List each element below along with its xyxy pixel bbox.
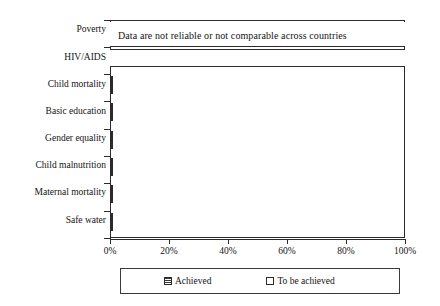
hatched-square-icon (164, 277, 172, 285)
stacked-bar (110, 185, 113, 203)
x-axis-tick-label-60: 60% (267, 246, 307, 257)
x-axis-tick-label-100: 100% (385, 246, 425, 257)
stacked-bar (110, 103, 113, 121)
empty-square-icon (266, 277, 274, 285)
x-axis-tick-label-80: 80% (326, 246, 366, 257)
bar-segment-to-be-achieved (112, 103, 113, 121)
y-axis-label-safe-water: Safe water (6, 215, 106, 225)
x-axis-tick-label-0: 0% (90, 246, 130, 257)
y-axis-label-poverty: Poverty (6, 24, 106, 34)
y-axis-label-hivaids: HIV/AIDS (6, 52, 106, 62)
y-axis-label-child-mortality: Child mortality (6, 79, 106, 89)
legend-label-to-be-achieved: To be achieved (277, 276, 334, 286)
stacked-bar (110, 76, 113, 94)
y-axis-label-gender-equality: Gender equality (6, 133, 106, 143)
y-axis-labels: Poverty HIV/AIDS Child mortality Basic e… (0, 20, 106, 238)
bar-row-hivaids (110, 49, 405, 67)
chart-legend: Achieved To be achieved (120, 268, 400, 294)
bar-segment-to-be-achieved (112, 158, 113, 176)
bar-row-gender-equality (110, 131, 405, 149)
bar-segment-to-be-achieved (112, 131, 113, 149)
bar-row-child-mortality (110, 76, 405, 94)
bar-segment-to-be-achieved (112, 213, 113, 231)
stacked-bar (110, 158, 113, 176)
x-axis-tick-label-40: 40% (208, 246, 248, 257)
legend-item-to-be-achieved: To be achieved (266, 276, 334, 286)
legend-label-achieved: Achieved (175, 276, 211, 286)
bar-segment-to-be-achieved (112, 76, 113, 94)
bar-row-child-malnutrition (110, 158, 405, 176)
x-axis-tick-label-20: 20% (149, 246, 189, 257)
x-axis-line (110, 239, 406, 240)
stacked-bar (110, 213, 113, 231)
bar-row-maternal-mortality (110, 185, 405, 203)
y-axis-label-child-malnutrition: Child malnutrition (6, 160, 106, 170)
chart-container: Poverty HIV/AIDS Child mortality Basic e… (0, 0, 440, 306)
bar-empty-hivaids (110, 49, 405, 67)
y-axis-label-maternal-mortality: Maternal mortality (6, 187, 106, 197)
stacked-bar (110, 131, 113, 149)
bar-row-basic-education (110, 103, 405, 121)
legend-item-achieved: Achieved (164, 276, 211, 286)
chart-annotation: Data are not reliable or not comparable … (118, 24, 398, 46)
bar-segment-to-be-achieved (112, 185, 113, 203)
bar-row-safe-water (110, 213, 405, 231)
bar-rows (110, 20, 405, 238)
y-axis-label-basic-education: Basic education (6, 106, 106, 116)
